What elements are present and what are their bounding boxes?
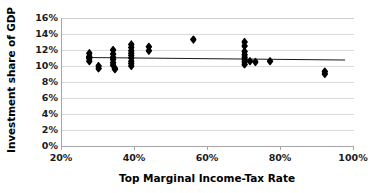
gridline bbox=[62, 66, 354, 67]
x-axis-tick-mark bbox=[61, 146, 62, 150]
x-axis-tick-label: 60% bbox=[196, 152, 219, 163]
x-axis-tick-mark bbox=[353, 146, 354, 150]
y-axis-tick-label: 16% bbox=[12, 13, 58, 23]
y-axis-tick-label: 14% bbox=[12, 29, 58, 39]
y-axis-tick-label: 2% bbox=[12, 125, 58, 135]
scatter-chart: Investment share of GDP 0%2%4%6%8%10%12%… bbox=[0, 0, 383, 193]
x-axis-label: Top Marginal Income-Tax Rate bbox=[61, 172, 353, 184]
x-axis-tick-label: 100% bbox=[338, 152, 367, 163]
y-axis-tick-label: 12% bbox=[12, 45, 58, 55]
gridline bbox=[62, 114, 354, 115]
y-axis-tick-labels: 0%2%4%6%8%10%12%14%16% bbox=[12, 0, 58, 193]
y-axis-tick-label: 10% bbox=[12, 61, 58, 71]
gridline bbox=[62, 18, 354, 19]
y-axis-tick-label: 0% bbox=[12, 141, 58, 151]
y-axis-tick-label: 8% bbox=[12, 77, 58, 87]
y-axis-tick-label: 4% bbox=[12, 109, 58, 119]
gridline bbox=[62, 34, 354, 35]
gridline bbox=[62, 98, 354, 99]
x-axis-tick-label: 20% bbox=[50, 152, 73, 163]
gridline bbox=[62, 50, 354, 51]
gridline bbox=[62, 130, 354, 131]
x-axis-tick-mark bbox=[134, 146, 135, 150]
x-axis-tick-mark bbox=[280, 146, 281, 150]
plot-area bbox=[61, 18, 354, 147]
gridline bbox=[62, 82, 354, 83]
x-axis-tick-mark bbox=[207, 146, 208, 150]
y-axis-tick-label: 6% bbox=[12, 93, 58, 103]
x-axis-tick-label: 40% bbox=[123, 152, 146, 163]
data-point bbox=[190, 35, 197, 44]
x-axis-tick-label: 80% bbox=[269, 152, 292, 163]
trendline bbox=[86, 57, 345, 60]
